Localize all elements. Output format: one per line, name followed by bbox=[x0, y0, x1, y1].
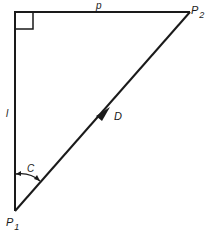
triangle-diagram: p P2 l D C P1 bbox=[0, 0, 211, 236]
label-p: p bbox=[95, 0, 102, 11]
direction-arrow-icon bbox=[96, 107, 110, 121]
label-c: C bbox=[27, 163, 35, 174]
hypotenuse-d bbox=[15, 12, 190, 211]
label-l: l bbox=[6, 108, 9, 119]
label-p2: P2 bbox=[191, 4, 204, 20]
label-p1: P1 bbox=[6, 216, 19, 232]
right-angle-marker bbox=[15, 12, 33, 29]
label-d: D bbox=[114, 110, 122, 122]
angle-arrow-right-icon bbox=[34, 175, 40, 181]
